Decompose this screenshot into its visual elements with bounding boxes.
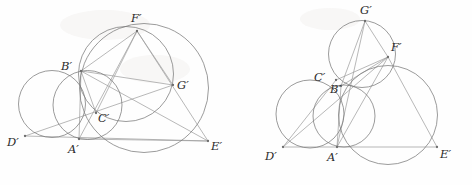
- label-f: F′: [130, 11, 142, 25]
- label-f: F′: [390, 40, 402, 54]
- label-c: C′: [98, 111, 110, 125]
- vertex-e: [436, 146, 438, 148]
- figure-root: A′B′C′D′E′F′G′ A′B′C′D′E′F′G′: [0, 0, 472, 185]
- vertex-c: [95, 112, 97, 114]
- right-diagram-lines: [283, 21, 437, 147]
- vertex-g: [364, 20, 366, 22]
- label-g: G′: [360, 3, 372, 17]
- vertex-e: [207, 140, 209, 142]
- line-A-F: [337, 57, 388, 147]
- right-diagram-circles: [276, 21, 438, 165]
- line-C-F: [96, 31, 137, 113]
- circle-GCF: [329, 21, 396, 88]
- line-D-F: [283, 57, 388, 147]
- label-g: G′: [177, 78, 189, 92]
- vertex-a: [78, 138, 80, 140]
- vertex-d: [282, 146, 284, 148]
- right-diagram: A′B′C′D′E′F′G′: [264, 3, 451, 165]
- line-F-E: [388, 57, 437, 147]
- line-C-F: [336, 57, 388, 80]
- left-diagram: A′B′C′D′E′F′G′: [6, 11, 222, 156]
- vertex-b: [80, 70, 82, 72]
- label-b: B′: [329, 82, 341, 96]
- vertex-c: [335, 79, 337, 81]
- vertex-a: [336, 146, 338, 148]
- line-D-C: [283, 80, 336, 147]
- line-G-F: [365, 21, 388, 57]
- label-d: D′: [264, 149, 277, 163]
- vertex-g: [172, 84, 174, 86]
- circle-AFE: [339, 66, 438, 165]
- label-e: E′: [210, 139, 222, 153]
- label-c: C′: [314, 70, 326, 84]
- circle-AFE: [80, 24, 209, 153]
- label-a: A′: [326, 150, 338, 164]
- circle-BFGC: [79, 27, 174, 122]
- label-d: D′: [6, 135, 19, 149]
- circle-DAB: [19, 71, 86, 138]
- geometry-canvas: A′B′C′D′E′F′G′ A′B′C′D′E′F′G′: [0, 0, 472, 185]
- label-e: E′: [439, 147, 451, 161]
- right-diagram-vertices: [282, 20, 438, 148]
- line-B-E: [81, 71, 208, 141]
- vertex-d: [24, 135, 26, 137]
- vertex-f: [136, 30, 138, 32]
- label-a: A′: [67, 142, 79, 156]
- line-B-F: [81, 31, 137, 71]
- line-B-G: [81, 71, 173, 85]
- label-b: B′: [60, 59, 72, 73]
- line-F-G: [137, 31, 173, 85]
- vertex-f: [387, 56, 389, 58]
- right-diagram-labels: A′B′C′D′E′F′G′: [264, 3, 451, 164]
- circle-ABC: [53, 71, 122, 140]
